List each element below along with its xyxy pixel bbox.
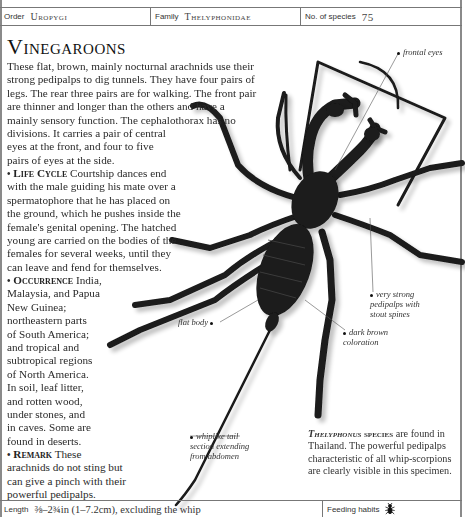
remark-section: • Remark These arachnids do not sting bu…: [7, 448, 177, 502]
text-line: subtropical regions: [7, 354, 137, 367]
annotation-tail: whiplike tail section extending from abd…: [190, 431, 249, 461]
text-line: These flat, brown, mainly nocturnal arac…: [7, 60, 297, 73]
text-line: and rotten wood,: [7, 395, 137, 408]
page-title: Vinegaroons: [7, 36, 126, 58]
pointer-dot-icon: [397, 52, 400, 55]
text-line: legs. The rear three pairs are for walki…: [7, 87, 297, 100]
pointer-dot-icon: [190, 436, 193, 439]
annotation-pedipalps: very strong pedipalps with stout spines: [370, 289, 420, 319]
bullet-icon: •: [7, 449, 11, 460]
remark-heading: Remark: [13, 448, 52, 460]
length-label: Length: [4, 505, 28, 514]
bullet-icon: •: [7, 275, 11, 286]
occurrence-section: • Occurrence India, Malaysia, and Papua …: [7, 274, 137, 448]
text-line: females for several weeks, until they: [7, 247, 207, 260]
text-line: pairs of eyes at the side.: [7, 154, 297, 167]
text-line: of North America.: [7, 368, 137, 381]
pointer-dot-icon: [210, 322, 213, 325]
text-line: divisions. It carries a pair of central: [7, 127, 297, 140]
pointer-dot-icon: [370, 294, 373, 297]
text-line: of South America;: [7, 328, 137, 341]
text-line: and tropical and: [7, 341, 137, 354]
facts-bar: Length ⅜–2¾in (1–7.2cm), excluding the w…: [0, 500, 462, 517]
text-line: eyes at the front, and four to five: [7, 140, 297, 153]
text-line: are thinner and longer than the others a…: [7, 100, 297, 113]
text-line: spermatophore that he has placed on: [7, 194, 207, 207]
feeding-habits-cell: Feeding habits: [322, 501, 462, 517]
text-line: can leave and fend for themselves.: [7, 261, 207, 274]
text-line: India,: [76, 274, 102, 286]
length-value: ⅜–2¾in (1–7.2cm), excluding the whip: [34, 504, 200, 515]
life-cycle-section: • Life Cycle Courtship dances end with t…: [7, 167, 207, 274]
specimen-caption: Thelyphonus species are found in Thailan…: [308, 428, 458, 478]
text-line: New Guinea;: [7, 301, 137, 314]
text-line: in caves. Some are: [7, 421, 137, 434]
text-line: under stones, and: [7, 408, 137, 421]
caption-species-suffix: species: [364, 428, 393, 439]
pointer-dot-icon: [343, 332, 346, 335]
text-line: In soil, leaf litter,: [7, 381, 137, 394]
text-line: arachnids do not sting but: [7, 461, 177, 474]
text-line: found in deserts.: [7, 435, 137, 448]
annotation-coloration: dark brown coloration: [343, 327, 388, 347]
text-line: These: [55, 448, 82, 460]
life-cycle-heading: Life Cycle: [13, 167, 67, 179]
length-cell: Length ⅜–2¾in (1–7.2cm), excluding the w…: [0, 501, 322, 517]
intro-paragraph: These flat, brown, mainly nocturnal arac…: [7, 60, 297, 167]
annotation-frontal-eyes: frontal eyes: [397, 47, 443, 57]
occurrence-heading: Occurrence: [13, 274, 73, 286]
text-line: with the male guiding his mate over a: [7, 180, 207, 193]
text-line: Courtship dances end: [70, 167, 166, 179]
text-line: Malaysia, and Papua: [7, 287, 137, 300]
text-line: northeastern parts: [7, 314, 137, 327]
caption-species: Thelyphonus: [308, 428, 361, 439]
text-line: can give a pinch with their: [7, 475, 177, 488]
insect-icon: [385, 503, 395, 515]
text-line: strong pedipalps to dig tunnels. They ha…: [7, 73, 297, 86]
text-line: female's genital opening. The hatched: [7, 221, 207, 234]
text-line: mainly sensory function. The cephalothor…: [7, 114, 297, 127]
text-line: the ground, which he pushes inside the: [7, 207, 207, 220]
feeding-habits-label: Feeding habits: [327, 505, 379, 514]
text-line: young are carried on the bodies of the: [7, 234, 207, 247]
bullet-icon: •: [7, 168, 11, 179]
annotation-flat-body: flat body: [178, 317, 216, 327]
